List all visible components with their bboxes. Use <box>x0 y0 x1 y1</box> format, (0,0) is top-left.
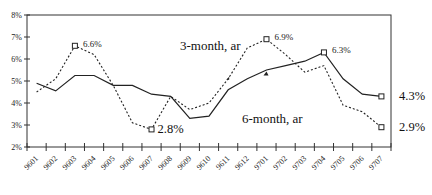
marker-square-icon <box>321 50 326 55</box>
x-tick-label: 9705 <box>329 154 347 172</box>
marker-square-icon <box>72 43 77 48</box>
plot-frame <box>27 15 391 147</box>
y-tick-label: 4% <box>11 99 22 108</box>
x-tick-label: 9702 <box>271 154 289 172</box>
y-tick-label: 8% <box>11 11 22 20</box>
y-tick-label: 6% <box>11 55 22 64</box>
y-tick-label: 7% <box>11 33 22 42</box>
plot-border <box>27 15 391 147</box>
y-tick-label: 3% <box>11 121 22 130</box>
x-tick-label: 9602 <box>41 154 59 172</box>
x-tick-label: 9603 <box>61 154 79 172</box>
x-tick-label: 9707 <box>367 154 385 172</box>
x-tick-label: 9606 <box>118 154 136 172</box>
series-label: 3-month, ar <box>180 38 241 53</box>
marker-square-icon <box>379 94 384 99</box>
series-6-month-line <box>37 52 382 118</box>
y-tick-label: 5% <box>11 77 22 86</box>
series-label: 6-month, ar <box>242 111 303 126</box>
page-number: 155 <box>398 191 418 195</box>
x-tick-label: 9610 <box>195 154 213 172</box>
x-tick-label: 9706 <box>348 154 366 172</box>
x-tick-label: 9608 <box>156 154 174 172</box>
x-tick-label: 9607 <box>137 154 155 172</box>
annotation-label: 4.3% <box>399 89 425 103</box>
x-tick-label: 9703 <box>291 154 309 172</box>
marker-square-icon <box>264 37 269 42</box>
x-tick-label: 9604 <box>80 154 98 172</box>
x-tick-label: 9612 <box>233 154 251 172</box>
x-tick-label: 9601 <box>22 154 40 172</box>
annotation-label: 6.3% <box>332 45 351 55</box>
y-tick-label: 2% <box>11 143 22 152</box>
x-tick-label: 9611 <box>214 154 231 171</box>
x-tick-label: 9704 <box>310 154 328 172</box>
annotation-label: 2.9% <box>399 120 425 134</box>
x-tick-label: 9701 <box>252 154 270 172</box>
x-tick-label: 9605 <box>99 154 117 172</box>
pointer-arrow-icon <box>263 72 268 76</box>
annotation-label: 6.9% <box>274 32 293 42</box>
marker-square-icon <box>149 127 154 132</box>
x-tick-label: 9609 <box>176 154 194 172</box>
line-chart: 2%3%4%5%6%7%8% 9601960296039604960596069… <box>0 0 432 195</box>
marker-square-icon <box>379 125 384 130</box>
annotation-label: 6.6% <box>83 39 102 49</box>
annotation-label: 2.8% <box>158 122 184 136</box>
pointer-arrow-icon <box>226 77 229 80</box>
